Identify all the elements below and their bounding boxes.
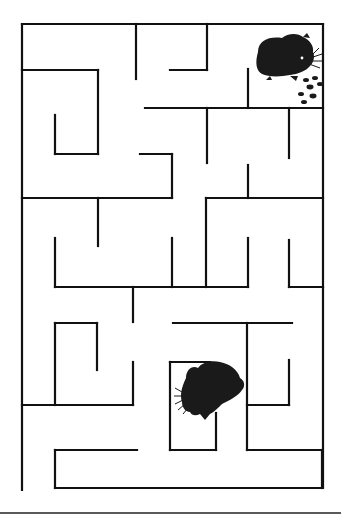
hamster-icon bbox=[256, 33, 322, 81]
maze-walls bbox=[22, 24, 323, 490]
food-pellets-icon bbox=[298, 76, 323, 104]
hamster-icon bbox=[174, 361, 244, 420]
maze-board bbox=[0, 0, 341, 519]
